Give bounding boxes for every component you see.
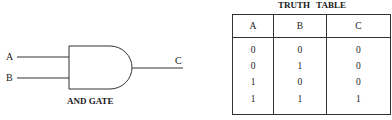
input-a-label: A: [6, 52, 13, 62]
cell-a: 1: [233, 91, 274, 115]
table-row: 1 1 1: [233, 91, 391, 115]
header-c: C: [326, 15, 390, 38]
truth-table: A B C 0 0 0 0 1 0 1 0 0 1 1 1: [232, 14, 391, 115]
table-row: 1 0 0: [233, 75, 391, 91]
cell-c: 0: [326, 75, 390, 91]
cell-c: 0: [326, 38, 390, 59]
cell-b: 0: [274, 75, 327, 91]
output-c-label: C: [175, 56, 182, 66]
cell-b: 0: [274, 38, 327, 59]
cell-b: 1: [274, 59, 327, 75]
input-b-label: B: [6, 73, 13, 83]
header-b: B: [274, 15, 327, 38]
table-row: 0 1 0: [233, 59, 391, 75]
table-row: 0 0 0: [233, 38, 391, 59]
cell-a: 0: [233, 59, 274, 75]
header-a: A: [233, 15, 274, 38]
cell-b: 1: [274, 91, 327, 115]
truth-table-title: TRUTH TABLE: [232, 0, 392, 10]
cell-c: 1: [326, 91, 390, 115]
cell-a: 1: [233, 75, 274, 91]
and-gate-body: [69, 46, 132, 89]
truth-table-header-row: A B C: [233, 15, 391, 38]
gate-caption: AND GATE: [67, 96, 114, 106]
cell-a: 0: [233, 38, 274, 59]
cell-c: 0: [326, 59, 390, 75]
